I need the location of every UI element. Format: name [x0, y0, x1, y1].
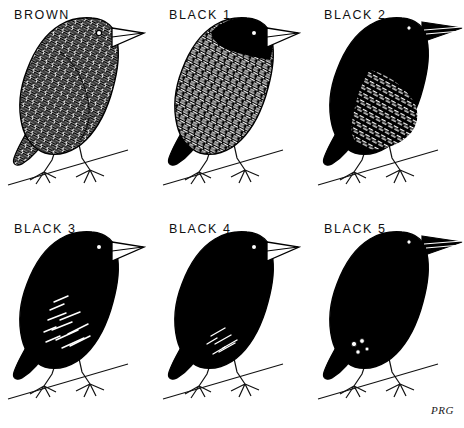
- bird-eye: [251, 244, 256, 249]
- bird-beak: [422, 236, 462, 256]
- bird-beak: [267, 28, 299, 47]
- bird-beak: [422, 22, 462, 42]
- bird-illustration-black-5: [310, 214, 464, 428]
- bird-illustration-black-4: [155, 214, 309, 428]
- bird-panel-black-1: BLACK 1: [155, 0, 309, 214]
- panel-label-brown: BROWN: [14, 8, 70, 22]
- panel-label-black-3: BLACK 3: [14, 222, 77, 236]
- bird-beak: [112, 242, 144, 261]
- bird-eye: [251, 30, 256, 35]
- plumage-stage-plate: BROWN: [0, 0, 464, 428]
- bird-panel-black-3: BLACK 3: [0, 214, 154, 428]
- bird-eye: [96, 244, 101, 249]
- bird-illustration-black-1: [155, 0, 309, 214]
- bird-illustration-brown: [0, 0, 154, 214]
- panel-label-black-4: BLACK 4: [169, 222, 232, 236]
- bird-illustration-black-3: [0, 214, 154, 428]
- bird-eye: [96, 30, 101, 35]
- artist-signature: PRG: [431, 404, 454, 416]
- bird-body: [330, 232, 428, 369]
- bird-panel-black-5: BLACK 5: [310, 214, 464, 428]
- bird-body: [20, 18, 118, 155]
- bird-beak: [112, 28, 144, 47]
- panel-label-black-5: BLACK 5: [324, 222, 387, 236]
- bird-panel-black-4: BLACK 4: [155, 214, 309, 428]
- bird-beak: [267, 242, 299, 261]
- bird-body: [20, 232, 118, 369]
- bird-panel-brown: BROWN: [0, 0, 154, 214]
- bird-panel-black-2: BLACK 2: [310, 0, 464, 214]
- bird-eye: [407, 26, 411, 30]
- bird-eye: [407, 240, 411, 244]
- panel-label-black-1: BLACK 1: [169, 8, 232, 22]
- panel-label-black-2: BLACK 2: [324, 8, 387, 22]
- bird-illustration-black-2: [310, 0, 464, 214]
